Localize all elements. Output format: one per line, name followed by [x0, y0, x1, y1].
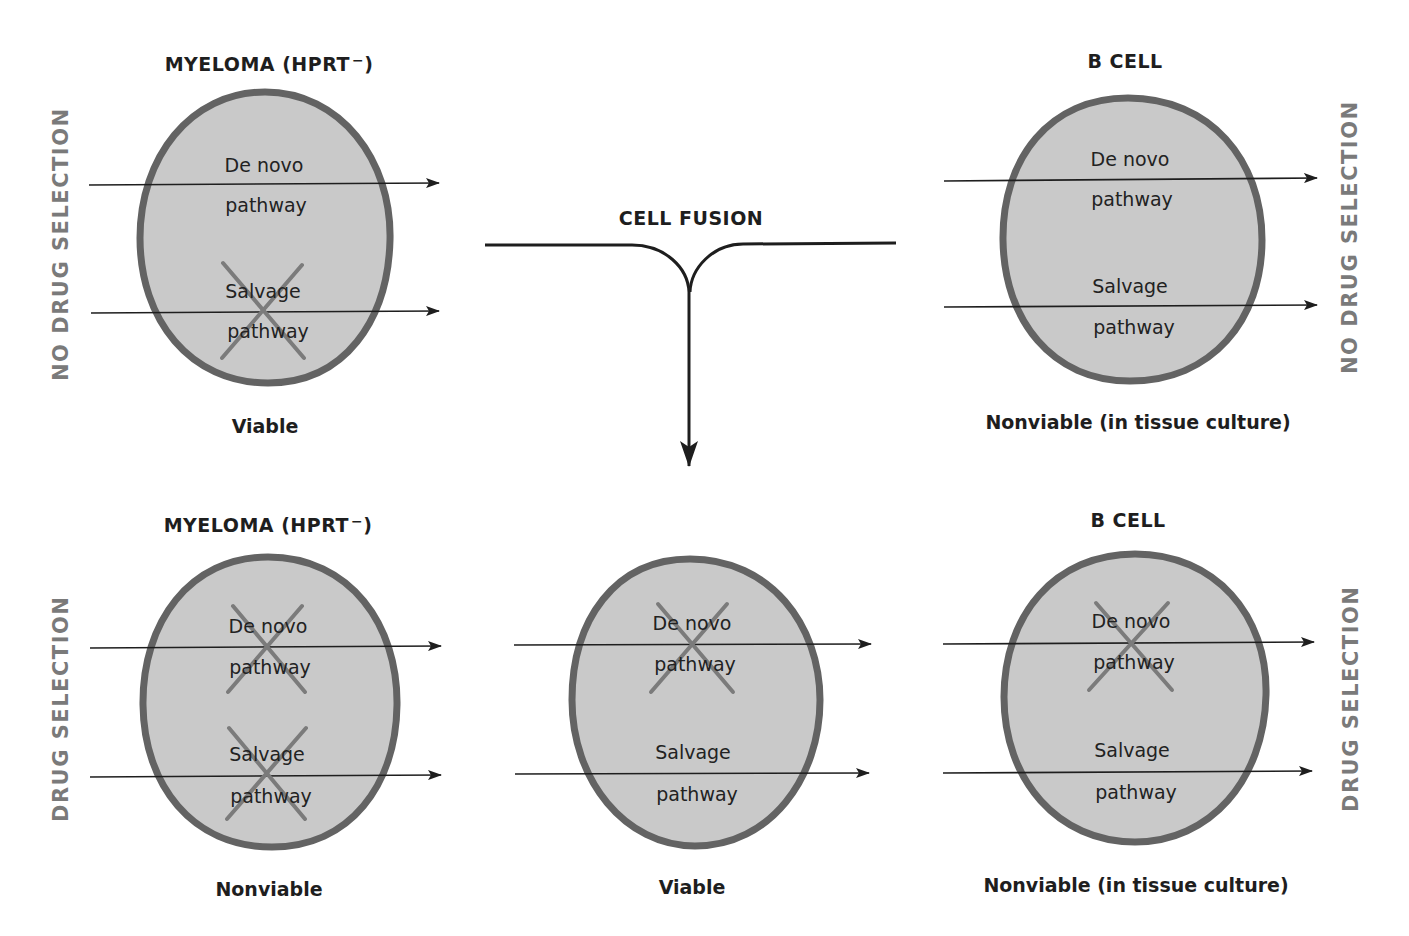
de-novo-label-line1: De novo — [653, 612, 732, 634]
fusion-left-branch — [485, 245, 689, 292]
cell-title-close: ) — [363, 514, 372, 536]
de-novo-label-line1: De novo — [225, 154, 304, 176]
de-novo-label-line2: pathway — [654, 653, 736, 675]
de-novo-label-line1: De novo — [229, 615, 308, 637]
de-novo-arrow — [89, 183, 439, 185]
salvage-label-line2: pathway — [656, 783, 738, 805]
cell-title-close: ) — [364, 53, 373, 75]
cell-fusion-connector — [485, 243, 896, 466]
cell-membrane — [1003, 98, 1262, 381]
cell-top-bcell — [944, 98, 1317, 381]
cell-title-bcell-top: B CELL — [1087, 50, 1162, 72]
salvage-label-line2: pathway — [1095, 781, 1177, 803]
cell-title-text: MYELOMA (HPRT — [165, 53, 350, 75]
hybridoma-selection-diagram: NO DRUG SELECTION NO DRUG SELECTION DRUG… — [0, 0, 1409, 936]
cell-status-nonviable: Nonviable — [215, 878, 322, 900]
salvage-label-line1: Salvage — [1092, 275, 1168, 297]
cell-title-text: MYELOMA (HPRT — [164, 514, 349, 536]
side-label-drug-selection-right: DRUG SELECTION — [1339, 586, 1363, 812]
de-novo-label-line2: pathway — [1091, 188, 1173, 210]
salvage-label-line1: Salvage — [1094, 739, 1170, 761]
cell-status-viable: Viable — [232, 415, 299, 437]
salvage-label-line1: Salvage — [229, 743, 305, 765]
cell-title-bcell-bottom: B CELL — [1090, 509, 1165, 531]
salvage-arrow — [944, 305, 1317, 307]
cell-title-myeloma-bottom: MYELOMA (HPRT−) — [164, 513, 373, 536]
de-novo-label-line1: De novo — [1092, 610, 1171, 632]
side-label-no-drug-selection-left: NO DRUG SELECTION — [49, 107, 73, 381]
cell-title-myeloma-top: MYELOMA (HPRT−) — [165, 52, 374, 75]
cell-status-nonviable-tissue-culture: Nonviable (in tissue culture) — [985, 411, 1290, 433]
salvage-arrow — [515, 773, 869, 774]
cell-title-superscript: − — [352, 52, 364, 68]
salvage-arrow — [943, 771, 1312, 773]
salvage-label-line2: pathway — [1093, 316, 1175, 338]
cell-title-superscript: − — [351, 513, 363, 529]
cell-status-viable-hybridoma: Viable — [659, 876, 726, 898]
cell-fusion-label: CELL FUSION — [619, 207, 763, 229]
salvage-label-line1: Salvage — [225, 280, 301, 302]
de-novo-label-line1: De novo — [1091, 148, 1170, 170]
salvage-label-line1: Salvage — [655, 741, 731, 763]
de-novo-label-line2: pathway — [229, 656, 311, 678]
salvage-label-line2: pathway — [227, 320, 309, 342]
fusion-right-branch — [690, 243, 896, 292]
salvage-label-line2: pathway — [230, 785, 312, 807]
side-label-drug-selection-left: DRUG SELECTION — [49, 596, 73, 822]
cell-status-nonviable-tissue-culture: Nonviable (in tissue culture) — [983, 874, 1288, 896]
de-novo-label-line2: pathway — [1093, 651, 1175, 673]
side-label-no-drug-selection-right: NO DRUG SELECTION — [1338, 100, 1362, 374]
de-novo-label-line2: pathway — [225, 194, 307, 216]
